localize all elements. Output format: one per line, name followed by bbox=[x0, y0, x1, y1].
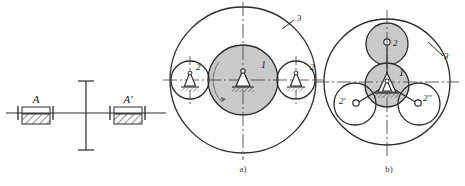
support-symbol-right-roller-a bbox=[287, 71, 305, 91]
label-center-gear-1-a: 1 bbox=[261, 59, 266, 70]
caption-b: b) bbox=[385, 164, 393, 174]
left-diagram-group: A A' bbox=[6, 81, 166, 150]
bearing-block-right: A' bbox=[110, 93, 145, 124]
bearing-right-plate bbox=[114, 107, 142, 113]
bearing-block-left: A bbox=[18, 93, 53, 124]
caption-a: a) bbox=[240, 164, 247, 174]
technical-diagram-svg: A A' bbox=[0, 0, 465, 186]
bearing-left-plate bbox=[22, 107, 50, 113]
diagram-b-group: 1 2 2' 2'' 3 b) bbox=[315, 10, 459, 174]
leader-line-ring-3-a bbox=[282, 20, 294, 29]
pivot-lower-right-b bbox=[415, 100, 421, 106]
label-roller-2-double-prime-b: 2'' bbox=[423, 93, 432, 103]
label-roller-2-right-a: 2 bbox=[310, 62, 315, 72]
label-roller-2-left-a: 2 bbox=[196, 62, 201, 72]
label-outer-ring-3-b: 3 bbox=[443, 51, 449, 61]
support-symbol-left-roller-a bbox=[181, 71, 199, 91]
pivot-lower-left-b bbox=[353, 100, 359, 106]
label-outer-ring-3-a: 3 bbox=[296, 13, 302, 23]
bearing-left-hatch-ground bbox=[22, 114, 50, 124]
bearing-right-label: A' bbox=[122, 93, 133, 105]
bearing-right-hatch-ground bbox=[114, 114, 142, 124]
label-center-gear-1-b: 1 bbox=[399, 67, 404, 78]
label-roller-2-top-b: 2 bbox=[393, 38, 398, 48]
figure-container: A A' bbox=[0, 0, 465, 186]
diagram-a-group: 1 2 2 3 a) bbox=[163, 2, 323, 174]
label-roller-2-prime-b: 2' bbox=[339, 96, 347, 106]
bearing-left-label: A bbox=[32, 93, 40, 105]
